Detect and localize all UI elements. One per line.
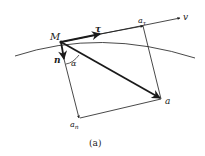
label-normal-unit: n (54, 55, 61, 65)
label-normal-accel: an (70, 120, 79, 130)
figure-caption: (a) (89, 138, 101, 148)
label-total-accel: a (165, 96, 170, 106)
label-point-m: M (49, 31, 61, 42)
diagram-canvas: M τ v aτ n α a an (a) (0, 0, 205, 156)
label-tangential-accel: aτ (138, 16, 147, 26)
parallelogram-side-n-a (80, 99, 161, 118)
parallelogram-side-tau-a (143, 26, 161, 99)
label-normal-accel-sub: n (75, 123, 79, 130)
total-accel-vector (61, 42, 160, 98)
trajectory-curve (15, 42, 195, 58)
label-tau: τ (95, 24, 102, 34)
tangential-accel-vector (100, 26, 143, 34)
label-alpha: α (71, 59, 77, 68)
label-velocity: v (183, 12, 188, 22)
tau-unit-vector (61, 34, 100, 42)
